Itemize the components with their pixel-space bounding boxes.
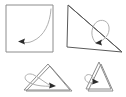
square-panel <box>6 5 53 52</box>
wide-triangle-arrowhead-icon <box>49 83 56 89</box>
wide-triangle-outline <box>26 66 72 91</box>
wide-triangle-panel <box>24 64 72 91</box>
shape-gesture-figure <box>0 0 126 97</box>
right-triangle-panel <box>67 5 122 52</box>
square-gesture-stroke <box>22 9 51 43</box>
square-arrowhead-icon <box>18 39 25 45</box>
figure-canvas <box>0 0 126 97</box>
right-triangle-arrowhead-icon <box>95 40 102 46</box>
narrow-triangle-arrowhead-icon <box>92 79 99 85</box>
narrow-triangle-outline-back <box>86 62 111 89</box>
narrow-triangle-panel <box>85 62 113 91</box>
right-triangle-hypotenuse <box>68 5 122 52</box>
